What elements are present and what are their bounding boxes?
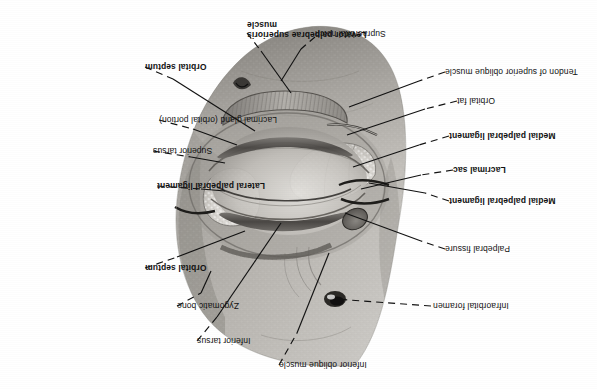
label-lateral-palpebral-ligament: Lateral palpebral ligament (157, 181, 281, 191)
label-tendon-of-superior-oblique-muscle: Tendon of superior oblique muscle (445, 67, 589, 77)
label-levator-palpebrae-superioris: Levator palpebrae superiorismuscle (247, 20, 385, 39)
label-palpebral-fissure: Palpebral fissure (445, 244, 541, 254)
label-lacrimal-gland-qualifier: (orbital portion) (159, 115, 220, 125)
label-inferior-tarsus: Inferior tarsus (197, 336, 273, 346)
label-lacrimal-sac: Lacrimal sac (453, 165, 525, 175)
label-lacrimal-gland-orbital-portion: Lacrimal gland (orbital portion) (159, 115, 319, 125)
label-levator-line1: Levator palpebrae superioris (247, 30, 366, 40)
rotated-plate: Infraorbital foramen Palpebral fissure M… (0, 0, 597, 389)
label-zygomatic-bone: Zygomatic bone (177, 301, 249, 311)
label-medial-palpebral-ligament-lower: Medial palpebral ligament (449, 131, 579, 141)
label-medial-palpebral-ligament-upper: Medial palpebral ligament (449, 196, 579, 206)
label-superior-tarsus: Superior tarsus (153, 146, 231, 156)
label-lacrimal-gland-main: Lacrimal gland (220, 115, 277, 125)
infraorbital-foramen-art (324, 291, 346, 307)
label-levator-line2: muscle (247, 21, 277, 31)
label-orbital-septum-upper: Orbital septum (145, 263, 221, 273)
label-orbital-septum-lower: Orbital septum (145, 62, 221, 72)
label-orbital-fat: Orbital fat (457, 96, 521, 106)
label-inferior-oblique-muscle: Inferior oblique muscle (279, 360, 385, 370)
anatomical-figure: Infraorbital foramen Palpebral fissure M… (0, 0, 597, 389)
label-infraorbital-foramen: Infraorbital foramen (433, 301, 551, 311)
